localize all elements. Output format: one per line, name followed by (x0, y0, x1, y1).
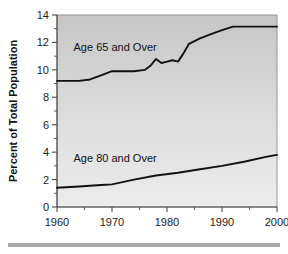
y-tick-label: 10 (37, 64, 49, 76)
series-annotation-label: Age 80 and Over (74, 152, 158, 164)
y-tick-label: 14 (37, 9, 49, 21)
y-tick-label: 4 (43, 146, 49, 158)
x-tick-label: 2000 (265, 216, 288, 228)
y-tick-label: 0 (43, 201, 49, 213)
x-tick-label: 1990 (210, 216, 234, 228)
y-tick-label: 12 (37, 36, 49, 48)
y-tick-label: 8 (43, 91, 49, 103)
chart-figure: 02468101214 19601970198019902000 Age 65 … (0, 0, 288, 254)
x-tick-label: 1960 (45, 216, 69, 228)
x-tick-label: 1970 (100, 216, 124, 228)
y-tick-label: 2 (43, 174, 49, 186)
y-axis-title: Percent of Total Population (7, 40, 19, 182)
y-tick-label: 6 (43, 119, 49, 131)
x-tick-label: 1980 (155, 216, 179, 228)
line-chart: 02468101214 19601970198019902000 Age 65 … (0, 0, 288, 254)
series-annotation-label: Age 65 and Over (74, 41, 158, 53)
footer-divider (8, 243, 280, 247)
